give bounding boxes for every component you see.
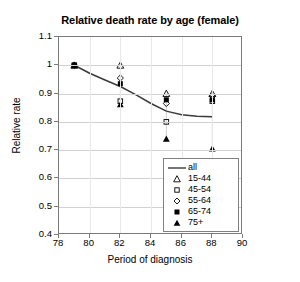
series-line-all (74, 65, 212, 116)
y-axis-tick-mark (54, 121, 58, 122)
y-axis-tick-mark (54, 149, 58, 150)
x-axis-tick-mark (150, 234, 151, 238)
y-axis-tick-mark (54, 206, 58, 207)
x-axis-tick-mark (58, 234, 59, 238)
chart-legend: all15-4445-5455-6465-7475+ (163, 158, 239, 232)
legend-label: 15-44 (188, 174, 211, 183)
legend-marker-triangle-filled-icon (166, 218, 188, 228)
legend-marker-square-open-icon (166, 185, 188, 195)
y-axis-tick-mark (54, 177, 58, 178)
y-axis-tick-mark (54, 36, 58, 37)
gridline-vertical (151, 37, 152, 233)
y-axis-tick-label: 0.8 (8, 116, 52, 126)
legend-marker-line-icon (166, 163, 188, 173)
gridline-horizontal (59, 65, 241, 66)
gridline-horizontal (59, 150, 241, 151)
y-axis-tick-mark (54, 93, 58, 94)
legend-item-55-64[interactable]: 55-64 (166, 195, 236, 206)
x-axis-tick-label: 88 (196, 238, 226, 248)
gridline-horizontal (59, 122, 241, 123)
legend-item-all[interactable]: all (166, 162, 236, 173)
legend-marker-triangle-open-icon (166, 174, 188, 184)
x-axis-tick-label: 84 (135, 238, 165, 248)
legend-label: 65-74 (188, 207, 211, 216)
x-axis-tick-mark (242, 234, 243, 238)
page-title: Relative death rate by age (female) (0, 14, 300, 26)
x-axis-tick-label: 86 (166, 238, 196, 248)
legend-item-75+[interactable]: 75+ (166, 217, 236, 228)
data-point-75+ (163, 135, 170, 141)
legend-label: all (188, 163, 197, 172)
y-axis-tick-mark (54, 64, 58, 65)
x-axis-tick-mark (211, 234, 212, 238)
y-axis-tick-label: 0.9 (8, 88, 52, 98)
x-axis-tick-label: 80 (74, 238, 104, 248)
gridline-vertical (90, 37, 91, 233)
gridline-horizontal (59, 94, 241, 95)
legend-item-45-54[interactable]: 45-54 (166, 184, 236, 195)
legend-item-15-44[interactable]: 15-44 (166, 173, 236, 184)
y-axis-tick-label: 0.7 (8, 144, 52, 154)
y-axis-tick-label: 1 (8, 59, 52, 69)
legend-item-65-74[interactable]: 65-74 (166, 206, 236, 217)
legend-label: 55-64 (188, 196, 211, 205)
legend-marker-diamond-open-icon (166, 196, 188, 206)
x-axis-tick-label: 90 (227, 238, 257, 248)
x-axis-tick-mark (181, 234, 182, 238)
y-axis-tick-label: 0.6 (8, 172, 52, 182)
legend-marker-square-filled-icon (166, 207, 188, 217)
x-axis-title: Period of diagnosis (58, 254, 242, 265)
data-point-65-74 (164, 97, 169, 102)
y-axis-tick-label: 0.5 (8, 201, 52, 211)
x-axis-tick-mark (119, 234, 120, 238)
gridline-vertical (120, 37, 121, 233)
x-axis-tick-mark (89, 234, 90, 238)
y-axis-tick-label: 1.1 (8, 31, 52, 41)
legend-label: 75+ (188, 218, 203, 227)
legend-label: 45-54 (188, 185, 211, 194)
x-axis-tick-label: 78 (43, 238, 73, 248)
x-axis-tick-label: 82 (104, 238, 134, 248)
